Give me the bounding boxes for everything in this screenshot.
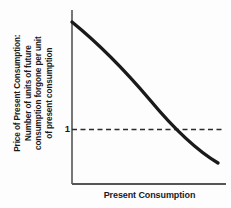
demand-curve bbox=[72, 22, 218, 163]
x-axis-label: Present Consumption bbox=[72, 190, 227, 200]
figure-price-of-present-consumption: Price of Present Consumption: Number of … bbox=[0, 0, 231, 208]
plot-area bbox=[0, 0, 231, 208]
